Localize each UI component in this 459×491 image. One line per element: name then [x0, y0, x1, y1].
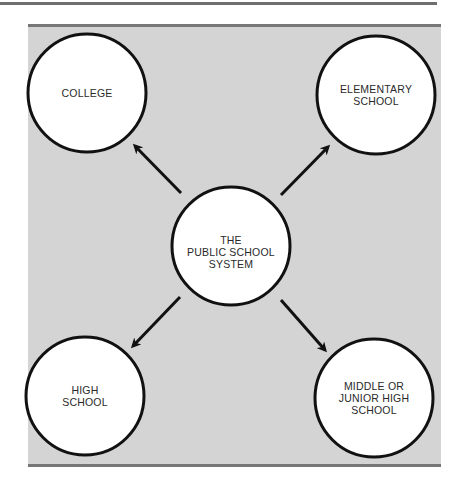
- node-college-label: COLLEGE: [32, 87, 142, 99]
- arrow-to-high-school: [133, 297, 180, 346]
- node-elementary-school-label: ELEMENTARY SCHOOL: [321, 83, 431, 107]
- arrow-to-elementary-school: [281, 147, 328, 195]
- node-middle-school-label: MIDDLE OR JUNIOR HIGH SCHOOL: [319, 380, 429, 416]
- node-public-school-system-label: THE PUBLIC SCHOOL SYSTEM: [176, 234, 286, 270]
- arrow-to-college: [135, 146, 181, 193]
- arrow-to-middle-school: [281, 300, 325, 350]
- node-high-school-label: HIGH SCHOOL: [30, 384, 140, 408]
